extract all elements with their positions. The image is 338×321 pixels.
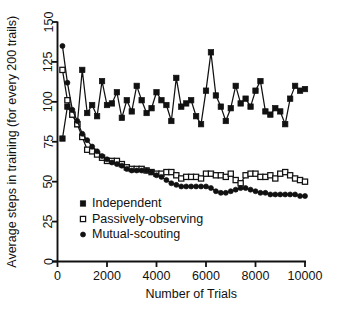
- data-point-marker: [193, 114, 198, 119]
- data-point-marker: [129, 109, 134, 114]
- data-point-marker: [243, 96, 248, 101]
- series-passively-observing: [60, 67, 308, 186]
- data-point-marker: [278, 192, 283, 197]
- y-tick-label: 100: [42, 91, 56, 112]
- data-point-marker: [238, 181, 243, 186]
- x-tick-label: 4000: [143, 269, 171, 283]
- data-point-marker: [243, 186, 248, 191]
- y-tick-label: 125: [42, 51, 56, 72]
- data-point-marker: [60, 67, 65, 72]
- data-point-marker: [184, 101, 189, 106]
- data-point-marker: [164, 178, 169, 183]
- data-point-marker: [179, 104, 184, 109]
- y-tick-label: 75: [42, 135, 56, 149]
- data-point-marker: [223, 190, 228, 195]
- data-point-marker: [119, 115, 124, 120]
- data-point-marker: [154, 90, 159, 95]
- data-point-marker: [238, 186, 243, 191]
- data-point-marker: [298, 194, 303, 199]
- data-point-marker: [288, 192, 293, 197]
- data-point-marker: [109, 101, 114, 106]
- x-tick-label: 0: [54, 269, 61, 283]
- data-point-marker: [85, 138, 90, 143]
- data-point-marker: [104, 102, 109, 107]
- y-tick-label: 50: [42, 175, 56, 189]
- x-tick-label: 10000: [288, 269, 323, 283]
- data-point-marker: [302, 86, 307, 91]
- data-point-marker: [169, 181, 174, 186]
- x-tick-label: 6000: [192, 269, 220, 283]
- axes-group: [53, 22, 307, 262]
- legend-label: Passively-observing: [92, 212, 203, 226]
- data-point-marker: [273, 106, 278, 111]
- y-tick-label: 25: [42, 215, 56, 229]
- x-tick-label: 8000: [242, 269, 270, 283]
- data-point-marker: [65, 80, 70, 85]
- data-point-marker: [100, 154, 105, 159]
- data-point-marker: [302, 179, 307, 184]
- series-line: [62, 52, 305, 138]
- data-point-marker: [283, 121, 288, 126]
- data-point-marker: [199, 184, 204, 189]
- data-point-marker: [149, 170, 154, 175]
- legend: IndependentPassively-observingMutual-sco…: [80, 196, 203, 241]
- data-point-marker: [174, 182, 179, 187]
- data-point-marker: [75, 118, 80, 123]
- data-point-marker: [248, 104, 253, 109]
- data-point-marker: [297, 88, 302, 93]
- data-point-marker: [144, 168, 149, 173]
- y-tick-group: 0255075100125150: [42, 12, 58, 265]
- y-tick-label: 0: [42, 258, 56, 265]
- data-point-marker: [169, 118, 174, 123]
- data-point-marker: [263, 190, 268, 195]
- x-tick-label: 2000: [93, 269, 121, 283]
- line-chart: 02550751001251500200040006000800010000Nu…: [0, 0, 338, 321]
- data-point-marker: [90, 144, 95, 149]
- data-point-marker: [95, 149, 100, 154]
- data-point-marker: [159, 98, 164, 103]
- data-point-marker: [60, 43, 65, 48]
- data-point-marker: [159, 174, 164, 179]
- data-point-marker: [119, 163, 124, 168]
- data-point-marker: [303, 194, 308, 199]
- data-point-marker: [149, 106, 154, 111]
- data-point-marker: [213, 93, 218, 98]
- data-point-marker: [194, 184, 199, 189]
- x-axis-title: Number of Trials: [145, 287, 237, 301]
- data-point-marker: [253, 88, 258, 93]
- y-tick-label: 150: [42, 12, 56, 33]
- data-point-marker: [233, 83, 238, 88]
- legend-marker-open-square: [80, 216, 85, 221]
- data-point-marker: [208, 50, 213, 55]
- y-axis-title: Average steps in training (for every 200…: [5, 16, 19, 268]
- data-point-marker: [248, 187, 253, 192]
- data-point-marker: [70, 107, 75, 112]
- data-point-marker: [228, 171, 233, 176]
- data-point-marker: [179, 184, 184, 189]
- data-point-marker: [258, 190, 263, 195]
- data-point-marker: [109, 160, 114, 165]
- x-tick-group: 0200040006000800010000: [54, 262, 322, 283]
- data-point-marker: [287, 96, 292, 101]
- data-point-marker: [268, 112, 273, 117]
- data-point-marker: [223, 118, 228, 123]
- data-point-marker: [139, 98, 144, 103]
- data-point-marker: [189, 184, 194, 189]
- data-point-marker: [89, 102, 94, 107]
- data-point-marker: [238, 101, 243, 106]
- data-point-marker: [80, 131, 85, 136]
- data-point-marker: [134, 83, 139, 88]
- data-point-marker: [228, 189, 233, 194]
- data-point-marker: [278, 109, 283, 114]
- data-point-marker: [144, 110, 149, 115]
- data-point-marker: [213, 189, 218, 194]
- data-point-marker: [114, 90, 119, 95]
- data-point-marker: [258, 78, 263, 83]
- data-point-marker: [124, 166, 129, 171]
- data-point-marker: [124, 98, 129, 103]
- data-point-marker: [60, 136, 65, 141]
- data-point-marker: [154, 173, 159, 178]
- data-point-marker: [198, 121, 203, 126]
- data-point-marker: [65, 98, 70, 103]
- data-point-marker: [268, 192, 273, 197]
